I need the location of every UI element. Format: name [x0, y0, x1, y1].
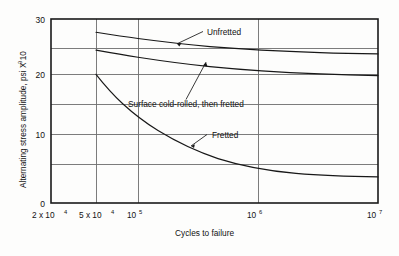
leader-unfretted — [177, 32, 203, 44]
xtick-5e4-exponent: 4 — [111, 209, 115, 215]
xtick-1e6-mantissa: 10 — [247, 210, 257, 220]
xtick-label-1e6: 10 6 — [247, 209, 262, 220]
xtick-label-1e7: 10 7 — [367, 209, 382, 220]
annotation-surface-cold-rolled-then-fretted: Surface cold-rolled, then fretted — [128, 99, 244, 109]
annotation-leaders — [177, 32, 208, 149]
annotation-unfretted: Unfretted — [207, 27, 242, 37]
xtick-1e7-exponent: 7 — [379, 209, 382, 215]
ytick-label-0: 0 — [40, 199, 45, 209]
y-axis-title: Alternating stress amplitude, psi X 10 — [18, 51, 28, 188]
xtick-2e4-exponent: 4 — [64, 209, 68, 215]
xtick-1e5-mantissa: 10 — [127, 210, 137, 220]
xtick-1e5-exponent: 5 — [139, 209, 142, 215]
ytick-label-20: 20 — [36, 70, 46, 80]
fatigue-curve-chart: Unfretted Surface cold-rolled, then fret… — [0, 0, 399, 256]
xtick-label-2e4: 2 x 10 4 — [32, 209, 68, 220]
y-axis-title-group: Alternating stress amplitude, psi X 10 -… — [17, 51, 28, 188]
xtick-2e4-mantissa: 2 x 10 — [32, 210, 55, 220]
leader-fretted — [191, 135, 207, 147]
xtick-label-5e4: 5 x 10 4 — [79, 209, 115, 220]
x-axis-title: Cycles to failure — [175, 228, 234, 238]
annotation-fretted: Fretted — [212, 130, 239, 140]
ytick-label-10: 10 — [36, 130, 46, 140]
xtick-label-1e5: 10 5 — [127, 209, 142, 220]
xtick-5e4-mantissa: 5 x 10 — [79, 210, 102, 220]
figure-container: Unfretted Surface cold-rolled, then fret… — [0, 0, 399, 256]
xtick-1e6-exponent: 6 — [259, 209, 262, 215]
leader-surface-cold-rolled — [186, 62, 206, 99]
ytick-label-30: 30 — [36, 15, 46, 25]
xtick-1e7-mantissa: 10 — [367, 210, 377, 220]
y-axis-title-exponent: -3 — [17, 61, 23, 66]
vertical-gridlines — [96, 19, 258, 203]
